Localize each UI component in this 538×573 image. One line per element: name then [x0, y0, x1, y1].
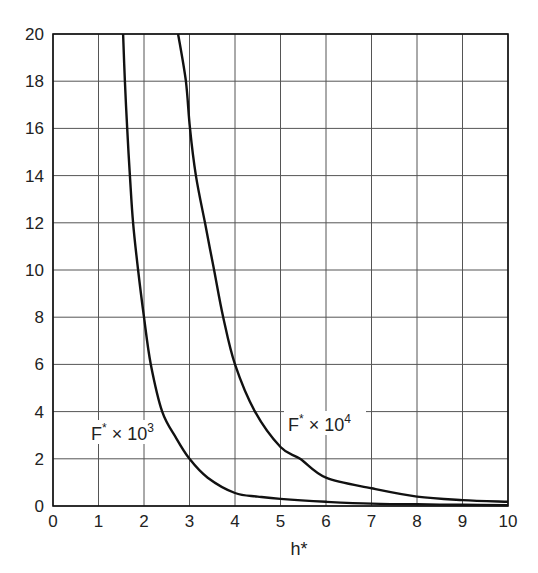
x-axis-ticks: 012345678910: [48, 512, 517, 531]
y-axis-ticks: 02468101214161820: [25, 25, 44, 516]
x-tick-label: 2: [139, 512, 148, 531]
x-tick-label: 8: [412, 512, 421, 531]
x-tick-label: 5: [276, 512, 285, 531]
y-tick-label: 4: [35, 403, 44, 422]
x-tick-label: 6: [321, 512, 330, 531]
y-tick-label: 20: [25, 25, 44, 44]
y-tick-label: 2: [35, 450, 44, 469]
y-tick-label: 16: [25, 119, 44, 138]
x-tick-label: 4: [230, 512, 239, 531]
x-axis-label: h*: [290, 539, 307, 559]
x-tick-label: 9: [458, 512, 467, 531]
chart-svg: 02468101214161820 012345678910 F* × 103 …: [0, 0, 538, 573]
x-tick-label: 0: [48, 512, 57, 531]
y-tick-label: 12: [25, 214, 44, 233]
y-tick-label: 14: [25, 167, 44, 186]
y-tick-label: 10: [25, 261, 44, 280]
series-label-f-x10-4: F* × 104: [288, 412, 351, 435]
y-tick-label: 18: [25, 72, 44, 91]
y-tick-label: 0: [35, 497, 44, 516]
series-label-f-x10-3: F* × 103: [91, 421, 154, 444]
y-tick-label: 8: [35, 308, 44, 327]
x-tick-label: 7: [367, 512, 376, 531]
x-tick-label: 10: [499, 512, 518, 531]
y-tick-label: 6: [35, 355, 44, 374]
x-tick-label: 3: [185, 512, 194, 531]
x-tick-label: 1: [94, 512, 103, 531]
